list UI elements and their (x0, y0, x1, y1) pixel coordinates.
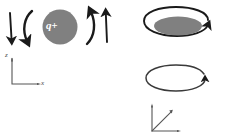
outer-left-down-arrow (10, 13, 12, 40)
charge-ellipse (154, 17, 202, 36)
top-view-panel: q+ z y x (116, 0, 232, 140)
outer-right-up-arrow (106, 13, 107, 42)
top-view-graphics (116, 0, 232, 140)
charge-field-figure: q+ z x q+ (0, 0, 232, 140)
axis-label-z-side: z (5, 52, 8, 59)
axes-2d (11, 58, 41, 86)
charge-disc (43, 10, 78, 45)
side-view-panel: q+ z x (0, 0, 116, 140)
axis-label-x-side: x (41, 80, 44, 87)
empty-orbit-loop (146, 65, 205, 91)
inner-left-curved-arrow (24, 11, 32, 41)
inner-right-curved-arrow (87, 12, 94, 44)
axes-3d (151, 104, 181, 133)
side-view-graphics (0, 0, 116, 140)
